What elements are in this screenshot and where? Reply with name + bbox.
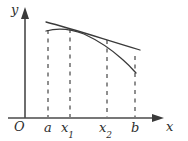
tick-label-x1-subscript: 1 [68, 130, 74, 140]
y-axis-label: y [11, 3, 18, 16]
tick-label-x2: x2 [99, 121, 112, 138]
figure-canvas [0, 0, 188, 141]
tick-label-x1: x1 [61, 121, 74, 138]
secant-line [46, 22, 140, 50]
tick-label-a: a [44, 121, 52, 134]
math-figure: y x O a x1 x2 b [0, 0, 188, 141]
origin-label: O [14, 120, 25, 133]
x-axis-label: x [166, 120, 173, 133]
tick-label-x2-subscript: 2 [106, 130, 112, 140]
x-axis-arrow-icon [152, 114, 164, 122]
tick-label-b: b [131, 121, 139, 134]
y-axis-arrow-icon [21, 7, 29, 19]
